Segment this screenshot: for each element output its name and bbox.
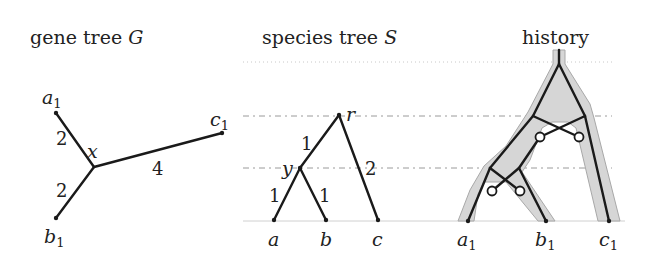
figure: gene tree G a1 b1 c1 x 2 2 4 species tre… — [0, 0, 650, 262]
loss-marker-3 — [488, 187, 497, 196]
gene-label-c1: c1 — [210, 108, 229, 133]
loss-marker-1 — [536, 133, 545, 142]
history-label-a1: a1 — [457, 228, 477, 253]
gene-edge-length-b1: 2 — [56, 180, 67, 201]
species-edge-length-y-b: 1 — [319, 185, 330, 206]
history-leaf-b1 — [544, 219, 548, 223]
species-tree-symbol: S — [384, 26, 397, 48]
loss-marker-4 — [516, 187, 525, 196]
gene-label-a1: a1 — [42, 86, 62, 111]
species-label-r: r — [346, 103, 357, 125]
history-label-b1: b1 — [535, 228, 555, 253]
species-label-c: c — [372, 228, 383, 250]
gene-tree-title: gene tree G — [30, 26, 143, 48]
history-title: history — [522, 26, 589, 48]
species-edge-length-r-y: 1 — [301, 133, 312, 154]
gene-tree-title-text: gene tree — [30, 26, 128, 48]
gene-node-a1 — [54, 111, 58, 115]
history-leaf-a1 — [466, 219, 470, 223]
species-label-a: a — [268, 228, 279, 250]
gene-label-x: x — [87, 140, 98, 162]
species-tree-title-text: species tree — [262, 26, 384, 48]
history-panel: history a1 b1 c1 — [457, 26, 620, 253]
species-edge-length-r-c: 2 — [365, 158, 376, 179]
history-label-c1: c1 — [599, 228, 618, 253]
species-node-r — [337, 113, 341, 117]
species-label-b: b — [320, 228, 332, 250]
species-node-b — [324, 218, 328, 222]
gene-label-b1: b1 — [44, 225, 64, 250]
species-edge-length-y-a: 1 — [269, 185, 280, 206]
species-tree-panel: species tree S r y a b c 1 2 1 1 — [262, 26, 397, 250]
gene-edge-length-a1: 2 — [56, 128, 67, 149]
gene-edge-length-c1: 4 — [152, 158, 163, 179]
species-label-y: y — [281, 157, 293, 179]
gene-tree-symbol: G — [128, 26, 143, 48]
species-node-c — [376, 218, 380, 222]
species-node-a — [272, 218, 276, 222]
species-node-y — [298, 166, 302, 170]
history-leaf-c1 — [607, 219, 611, 223]
species-tree-title: species tree S — [262, 26, 397, 48]
gene-node-b1 — [54, 216, 58, 220]
loss-marker-2 — [575, 133, 584, 142]
gene-tree-panel: gene tree G a1 b1 c1 x 2 2 4 — [30, 26, 229, 250]
